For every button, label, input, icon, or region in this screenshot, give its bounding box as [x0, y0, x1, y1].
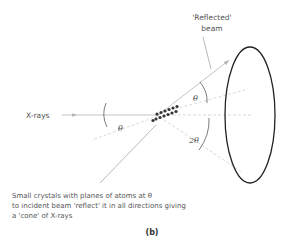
- reflected-beam: [157, 61, 228, 116]
- caption-line-1: Small crystals with planes of atoms at θ: [12, 192, 152, 200]
- reflected-beam-label-line2: beam: [201, 24, 222, 33]
- incident-arrow-icon: [72, 113, 77, 117]
- theta-arc-upper: [200, 82, 207, 103]
- caption-line-3: a 'cone' of X-rays: [12, 212, 73, 220]
- theta-left-label: θ: [118, 124, 123, 133]
- plane-dashed-line-left: [92, 116, 158, 140]
- two-theta-label: 2θ: [188, 136, 199, 145]
- reflected-beam-label-line1: 'Reflected': [192, 13, 231, 22]
- two-theta-arc: [199, 118, 209, 150]
- figure-label: (b): [145, 228, 158, 237]
- crystal-atoms: [151, 105, 178, 122]
- plane-dashed-line-right: [175, 89, 248, 109]
- xray-diffraction-diagram: 'Reflected' beam X-rays θ θ 2θ Small cry…: [0, 0, 288, 243]
- caption-line-2: to incident beam 'reflect' it in all dir…: [12, 202, 186, 210]
- theta-upper-label: θ: [193, 94, 198, 103]
- cone-lower-dashed-line: [160, 117, 243, 173]
- reflected-beam-leader-line: [203, 37, 211, 69]
- xrays-label: X-rays: [26, 111, 50, 120]
